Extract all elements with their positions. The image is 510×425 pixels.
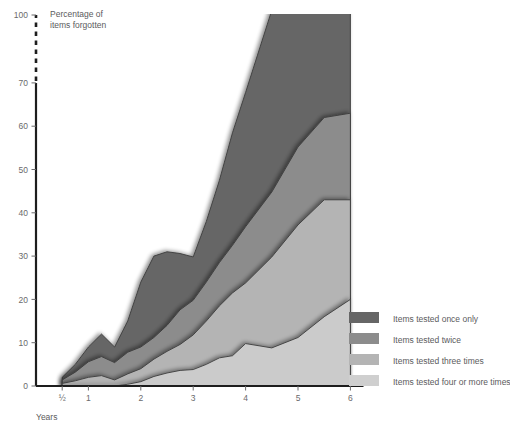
y-tick-label-0: 0 bbox=[23, 381, 28, 391]
y-tick-label-10: 10 bbox=[19, 338, 29, 348]
legend-label-4: Items tested four or more times bbox=[393, 377, 510, 387]
y-axis-caption-line1: Percentage of bbox=[50, 9, 104, 19]
legend-swatch-4 bbox=[349, 375, 379, 386]
legend-label-3: Items tested three times bbox=[393, 356, 484, 366]
forgetting-curve-stacked-area-chart: 010203040506070100 ½123456 Percentage of… bbox=[0, 0, 510, 425]
x-tick-label-3: 3 bbox=[191, 393, 196, 403]
y-axis-caption-line2: items forgotten bbox=[50, 20, 106, 30]
y-tick-label-30: 30 bbox=[19, 251, 29, 261]
chart-legend: Items tested once onlyItems tested twice… bbox=[349, 312, 510, 387]
x-tick-label-6: 6 bbox=[348, 393, 353, 403]
x-tick-label-½: ½ bbox=[59, 393, 66, 403]
x-tick-label-2: 2 bbox=[138, 393, 143, 403]
y-tick-label-60: 60 bbox=[19, 121, 29, 131]
x-axis: ½123456 bbox=[36, 386, 364, 403]
legend-label-1: Items tested once only bbox=[393, 314, 479, 324]
y-tick-label-70: 70 bbox=[19, 78, 29, 88]
y-tick-label-20: 20 bbox=[19, 295, 29, 305]
legend-swatch-1 bbox=[349, 312, 379, 323]
x-axis-caption: Years bbox=[36, 412, 57, 422]
y-tick-label-50: 50 bbox=[19, 165, 29, 175]
y-tick-label-100: 100 bbox=[14, 10, 28, 20]
x-tick-label-4: 4 bbox=[243, 393, 248, 403]
y-tick-label-40: 40 bbox=[19, 208, 29, 218]
x-tick-label-5: 5 bbox=[296, 393, 301, 403]
stacked-area-series-group bbox=[62, 0, 350, 386]
y-axis: 010203040506070100 bbox=[14, 10, 36, 391]
x-tick-label-1: 1 bbox=[86, 393, 91, 403]
legend-swatch-2 bbox=[349, 333, 379, 344]
chart-canvas: 010203040506070100 ½123456 Percentage of… bbox=[0, 0, 510, 425]
legend-label-2: Items tested twice bbox=[393, 335, 461, 345]
legend-swatch-3 bbox=[349, 354, 379, 365]
